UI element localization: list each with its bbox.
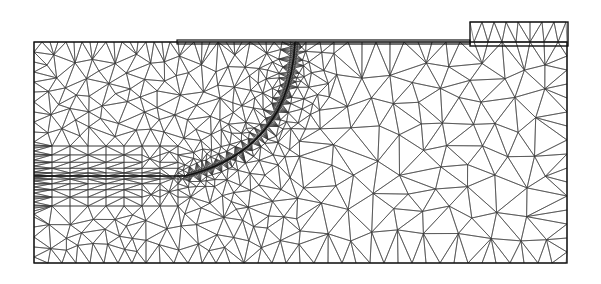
mesh-figure	[0, 0, 601, 284]
domain-boundary	[34, 22, 568, 263]
mesh-elements	[34, 22, 567, 263]
triangle-elements	[34, 22, 567, 263]
fe-mesh-svg	[0, 0, 601, 284]
domain-outline	[34, 42, 567, 263]
